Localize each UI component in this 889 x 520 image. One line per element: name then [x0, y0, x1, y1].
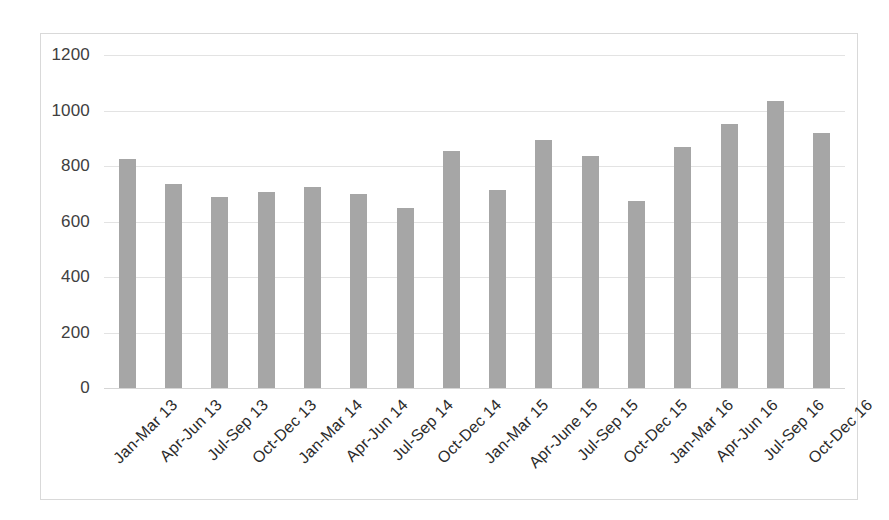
bar-slot [660, 55, 706, 388]
y-axis-tick-label: 0 [80, 378, 90, 398]
bar-slot [706, 55, 752, 388]
bar [535, 140, 552, 388]
x-axis-tick-label: Oct-Dec 16 [805, 396, 876, 467]
x-tick-slot: Jul-Sep 14 [382, 392, 428, 492]
bar [628, 201, 645, 388]
y-axis-tick-label: 1000 [51, 101, 90, 121]
x-tick-slot: Jan-Mar 13 [104, 392, 150, 492]
x-tick-slot: Jul-Sep 15 [567, 392, 613, 492]
bar [721, 124, 738, 388]
bar-slot [521, 55, 567, 388]
bar-slot [428, 55, 474, 388]
bar [674, 147, 691, 388]
bar [767, 101, 784, 388]
x-tick-slot: Oct-Dec 15 [613, 392, 659, 492]
bar [304, 187, 321, 388]
x-tick-slot: Apr-June 15 [521, 392, 567, 492]
x-tick-slot: Oct-Dec 13 [243, 392, 289, 492]
x-tick-slot: Oct-Dec 14 [428, 392, 474, 492]
x-tick-slot: Apr-Jun 16 [706, 392, 752, 492]
bar-slot [336, 55, 382, 388]
x-tick-slot: Oct-Dec 16 [799, 392, 845, 492]
x-tick-slot: Apr-Jun 14 [336, 392, 382, 492]
x-tick-slot: Apr-Jun 13 [150, 392, 196, 492]
x-tick-slot: Jul-Sep 16 [752, 392, 798, 492]
y-axis-tick-label: 1200 [51, 45, 90, 65]
bars-series [104, 55, 845, 388]
x-axis-tick-labels: Jan-Mar 13Apr-Jun 13Jul-Sep 13Oct-Dec 13… [104, 392, 845, 492]
x-tick-slot: Jan-Mar 15 [475, 392, 521, 492]
bar-slot [243, 55, 289, 388]
bar [397, 208, 414, 388]
bar-slot [799, 55, 845, 388]
bar-chart-figure: 020040060080010001200 Jan-Mar 13Apr-Jun … [0, 0, 889, 520]
bar [443, 151, 460, 388]
bar-slot [613, 55, 659, 388]
bar-slot [475, 55, 521, 388]
y-axis-tick-label: 400 [61, 267, 90, 287]
x-tick-slot: Jan-Mar 16 [660, 392, 706, 492]
bar-slot [567, 55, 613, 388]
bar [258, 192, 275, 388]
bar [350, 194, 367, 388]
bar-slot [104, 55, 150, 388]
bar-slot [382, 55, 428, 388]
gridline-0 [104, 388, 845, 389]
bar [489, 190, 506, 388]
y-axis-tick-label: 600 [61, 212, 90, 232]
x-tick-slot: Jan-Mar 14 [289, 392, 335, 492]
bar [119, 159, 136, 388]
y-axis-tick-labels: 020040060080010001200 [40, 55, 98, 388]
plot-area [104, 55, 845, 388]
y-axis-tick-label: 800 [61, 156, 90, 176]
bar [165, 184, 182, 388]
bar-slot [752, 55, 798, 388]
bar [813, 133, 830, 388]
bar [582, 156, 599, 388]
bar-slot [150, 55, 196, 388]
y-axis-tick-label: 200 [61, 323, 90, 343]
bar-slot [197, 55, 243, 388]
bar-slot [289, 55, 335, 388]
x-tick-slot: Jul-Sep 13 [197, 392, 243, 492]
bar [211, 197, 228, 388]
